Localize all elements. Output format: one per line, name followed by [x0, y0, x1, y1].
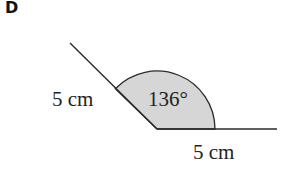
panel-label: D — [5, 0, 18, 16]
angle-diagram: D 5 cm 136° 5 cm — [0, 0, 292, 172]
angle-label: 136° — [148, 87, 188, 111]
side-left-label: 5 cm — [52, 87, 93, 111]
side-bottom-label: 5 cm — [193, 140, 234, 164]
angle-figure: 5 cm 136° 5 cm — [0, 0, 292, 172]
